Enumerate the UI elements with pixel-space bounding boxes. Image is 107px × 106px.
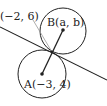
label-point-b: B(a, b) — [47, 16, 84, 29]
label-point-p: (−2, 6) — [0, 10, 39, 23]
label-point-a: A(−3, 4) — [23, 78, 71, 91]
tangent-circles-diagram: (−2, 6) B(a, b) A(−3, 4) — [0, 0, 107, 106]
point-a-dot — [40, 72, 44, 76]
tangent-point-dot — [51, 51, 54, 54]
